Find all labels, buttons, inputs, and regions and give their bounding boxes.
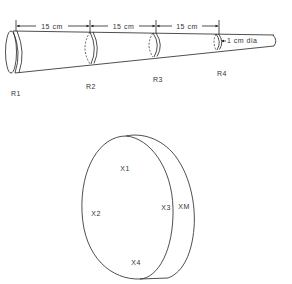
disk-face [82,136,173,279]
diagram-canvas: 15 cm 15 cm 15 cm 1 cm dia R1 R2 R3 R4 X… [0,0,292,284]
ring-r2-front [90,32,94,64]
point-label-x4: X4 [131,259,141,266]
point-label-x3: X3 [161,204,171,211]
segment-label-2: 15 cm [113,23,135,30]
point-label-x2: X2 [91,210,101,217]
ring-r4-hidden [214,34,216,50]
diameter-label: 1 cm dia [227,37,257,44]
ring-r2-hidden [85,32,90,64]
point-label-x1: X1 [120,165,130,172]
ring-r3-hidden [149,33,153,57]
ring-r3-front [153,33,157,57]
ring-r1-face [6,31,17,73]
cone-top-edge [13,31,274,35]
ring-label-r3: R3 [153,76,163,83]
segment-label-1: 15 cm [41,23,63,30]
ring-r2-back [93,32,97,64]
ring-label-r2: R2 [86,83,96,90]
cone-tip [273,35,276,46]
ring-r1-rim [13,31,18,73]
ring-r3-back [156,33,160,57]
disk-sample: X1 X2 X3 XM X4 [82,135,195,279]
tapered-cone: 15 cm 15 cm 15 cm 1 cm dia R1 R2 R3 R4 [6,20,276,97]
ring-r4-front [216,34,219,50]
ring-label-r1: R1 [11,90,21,97]
ring-label-r4: R4 [217,70,227,77]
segment-label-3: 15 cm [176,23,198,30]
edge-label-xm: XM [178,203,190,210]
cone-bottom-edge [15,46,274,73]
